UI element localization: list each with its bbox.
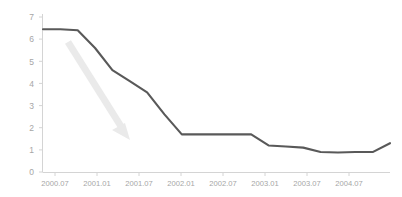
y-tick-label-1: 1: [29, 145, 34, 155]
y-tick-label-4: 4: [29, 79, 34, 89]
y-tick-label-0: 0: [29, 167, 34, 177]
y-axis-ticks: [39, 17, 43, 172]
arrow-head: [112, 123, 130, 140]
x-tick-label-4: 2002.07: [209, 179, 236, 188]
y-tick-label-6: 6: [29, 34, 34, 44]
y-tick-label-3: 3: [29, 101, 34, 111]
x-tick-label-1: 2001.01: [83, 179, 110, 188]
y-tick-label-7: 7: [29, 12, 34, 22]
line-chart-figure: 7 6 5 4 3 2 1 0 2000.07 2001.01 2001.07 …: [0, 0, 402, 197]
x-tick-label-7: 2004.07: [335, 179, 362, 188]
x-tick-label-6: 2003.07: [293, 179, 320, 188]
x-tick-label-0: 2000.07: [41, 179, 68, 188]
x-tick-label-3: 2002.01: [167, 179, 194, 188]
x-tick-label-2: 2001.07: [125, 179, 152, 188]
x-axis-ticks: [55, 173, 349, 177]
decline-arrow-annotation: [68, 42, 130, 140]
y-tick-label-2: 2: [29, 123, 34, 133]
y-tick-label-5: 5: [29, 57, 34, 67]
arrow-shaft: [68, 42, 122, 128]
chart-canvas: 7 6 5 4 3 2 1 0 2000.07 2001.01 2001.07 …: [0, 0, 402, 197]
x-tick-label-5: 2003.01: [251, 179, 278, 188]
